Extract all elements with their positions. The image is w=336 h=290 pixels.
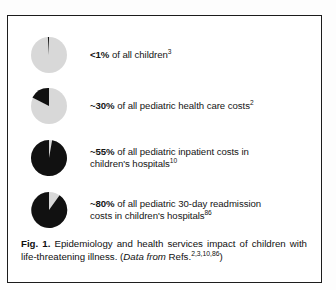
pie-cell (8, 86, 90, 126)
label-cell: ~30% of all pediatric health care costs2 (90, 100, 321, 112)
pie-label: ~30% of all pediatric health care costs2 (90, 100, 309, 112)
figure-frame: <1% of all children3 ~30% of all pediatr… (7, 15, 322, 283)
figure-number: Fig. 1. (21, 238, 50, 249)
pie-label-text: of all children (109, 49, 167, 60)
caption-refs-numbers: 2,3,10,86 (191, 249, 219, 256)
pie-chart-30-percent (29, 86, 69, 126)
figure-row: ~55% of all pediatric inpatient costs in… (8, 132, 321, 184)
figure-row: <1% of all children3 (8, 29, 321, 81)
pie-label-text-line2: costs in children's hospitals (90, 210, 205, 221)
pie-label-text: of all pediatric health care costs (115, 100, 250, 111)
pie-cell (8, 138, 90, 178)
label-cell: <1% of all children3 (90, 49, 321, 61)
label-cell: ~80% of all pediatric 30-day readmission… (90, 198, 321, 223)
figure-row: ~80% of all pediatric 30-day readmission… (8, 184, 321, 236)
reference-marker: 86 (205, 209, 212, 216)
pie-label: <1% of all children3 (90, 49, 309, 61)
pie-label-text: of all pediatric 30-day readmission (115, 198, 261, 209)
figure-row: ~30% of all pediatric health care costs2 (8, 80, 321, 132)
pie-percent-value: ~30% (90, 100, 115, 111)
reference-marker: 3 (168, 48, 172, 55)
reference-marker: 10 (170, 157, 177, 164)
caption-refs: Refs.2,3,10,86) (166, 251, 223, 262)
caption-close-paren: ) (220, 251, 223, 262)
pie-label-text: of all pediatric inpatient costs in (115, 146, 249, 157)
pie-label-text-line2: children's hospitals (90, 158, 170, 169)
figure-page: <1% of all children3 ~30% of all pediatr… (0, 0, 336, 290)
reference-marker: 2 (250, 99, 254, 106)
pie-cell (8, 190, 90, 230)
pie-cell (8, 35, 90, 75)
pie-label: ~55% of all pediatric inpatient costs in… (90, 146, 309, 171)
pie-percent-value: ~80% (90, 198, 115, 209)
pie-chart-55-percent (29, 138, 69, 178)
pie-chart-under-1-percent (29, 35, 69, 75)
caption-source: Data from (123, 251, 166, 262)
pie-chart-80-percent (29, 190, 69, 230)
pie-label: ~80% of all pediatric 30-day readmission… (90, 198, 309, 223)
pie-percent-value: ~55% (90, 146, 115, 157)
caption-refs-word: Refs. (166, 251, 191, 262)
figure-caption: Fig. 1. Epidemiology and health services… (21, 238, 307, 263)
label-cell: ~55% of all pediatric inpatient costs in… (90, 146, 321, 171)
pie-percent-value: <1% (90, 49, 109, 60)
